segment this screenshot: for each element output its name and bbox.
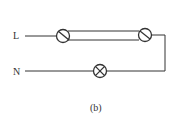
live-terminal-label: L xyxy=(13,30,19,41)
lamp-icon xyxy=(94,65,107,78)
switch-2-icon xyxy=(139,29,152,42)
circuit-diagram: L N (b) xyxy=(0,0,181,118)
figure-caption: (b) xyxy=(90,102,102,114)
switch-1-icon xyxy=(57,30,70,43)
neutral-terminal-label: N xyxy=(13,66,20,77)
